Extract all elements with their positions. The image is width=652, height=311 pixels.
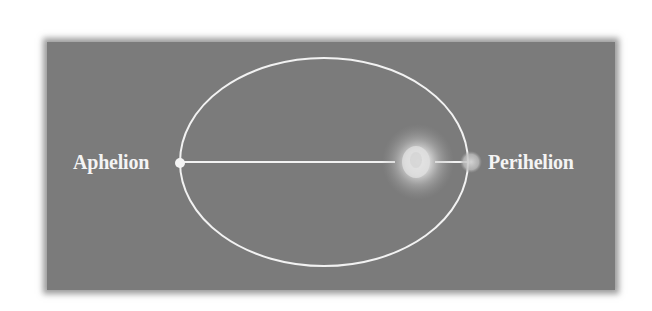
- planet-icon: [460, 151, 482, 173]
- sun-icon: [382, 124, 454, 200]
- perihelion-label: Perihelion: [488, 152, 574, 172]
- aphelion-label: Aphelion: [73, 152, 149, 172]
- aphelion-marker-icon: [175, 158, 185, 168]
